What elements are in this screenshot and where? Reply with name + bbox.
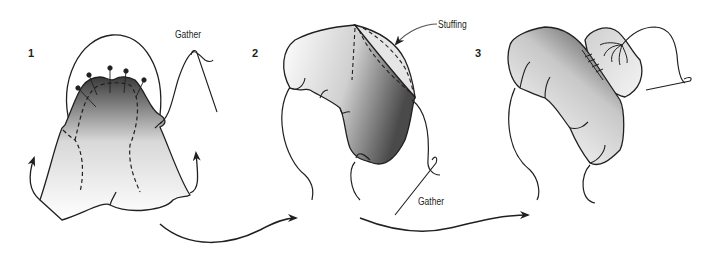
stuffing-label: Stuffing — [438, 19, 467, 30]
gather-and-stuff-diagram: 1 2 3 Gather Stuffing Gather — [0, 0, 728, 255]
step-2-number: 2 — [252, 47, 258, 59]
step-1-number: 1 — [28, 47, 34, 59]
flow-arrow-2-to-3 — [360, 215, 528, 231]
step-1-illustration — [30, 35, 217, 220]
diagram-canvas — [0, 0, 728, 255]
gather-label-bottom: Gather — [418, 196, 444, 207]
step-3-illustration — [508, 27, 691, 203]
gather-label-top: Gather — [175, 29, 201, 40]
needle-icon — [646, 78, 691, 90]
step-3-number: 3 — [475, 47, 481, 59]
flow-arrow-1-to-2 — [160, 218, 296, 242]
step-2-illustration — [282, 24, 440, 215]
